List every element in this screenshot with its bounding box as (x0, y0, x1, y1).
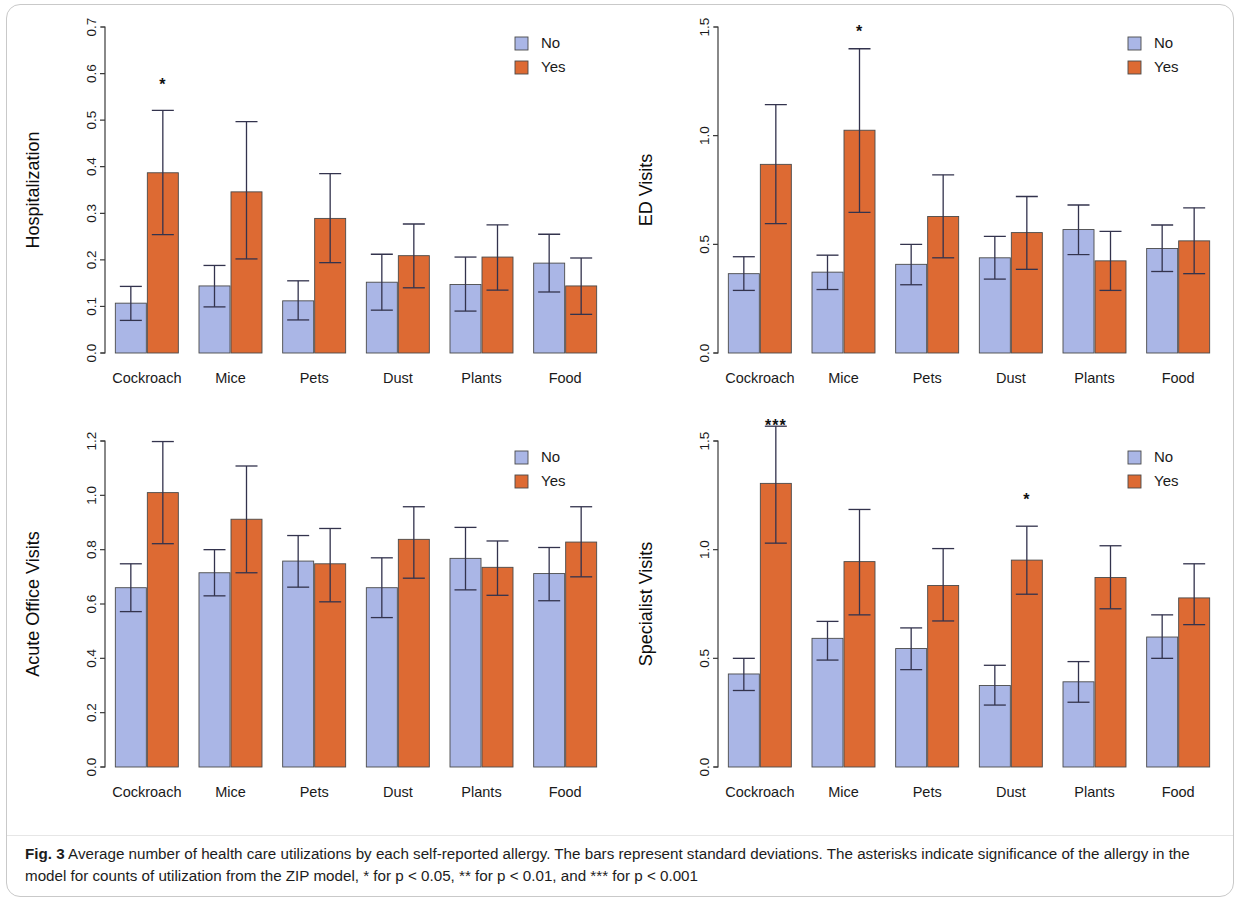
figure-card: 0.00.10.20.30.40.50.60.7HospitalizationC… (6, 4, 1234, 897)
category-label: Pets (300, 370, 329, 386)
y-tick-label: 0.2 (84, 703, 99, 722)
category-label: Dust (383, 370, 413, 386)
y-tick-label: 1.5 (697, 432, 712, 451)
legend-swatch-no (515, 37, 528, 50)
figure-caption-text: Average number of health care utilizatio… (25, 845, 1190, 884)
legend-swatch-yes (515, 475, 528, 488)
category-label: Food (1162, 784, 1195, 800)
category-label: Food (549, 370, 582, 386)
y-axis-title: ED Visits (636, 154, 656, 227)
bar (199, 573, 230, 767)
caption-divider (7, 835, 1234, 836)
y-tick-label: 0.5 (697, 649, 712, 668)
legend-swatch-no (515, 451, 528, 464)
legend-label-yes: Yes (541, 58, 565, 75)
y-tick-label: 0.4 (84, 648, 99, 667)
bar (115, 588, 146, 767)
category-label: Cockroach (725, 784, 794, 800)
chart-panel-acute-office-visits: 0.00.20.40.60.81.01.2Acute Office Visits… (7, 419, 620, 833)
y-tick-label: 0.0 (697, 344, 712, 363)
chart-legend: NoYes (515, 448, 565, 489)
bar (482, 567, 513, 767)
bar (534, 574, 565, 767)
chart-legend: NoYes (1128, 448, 1178, 489)
chart-panel-ed-visits: 0.00.51.01.5ED VisitsCockroachMicePetsDu… (620, 5, 1233, 419)
y-tick-label: 1.0 (697, 540, 712, 559)
y-tick-label: 0.7 (84, 18, 99, 37)
legend-label-no: No (1154, 448, 1173, 465)
category-label: Dust (996, 370, 1026, 386)
category-label: Plants (461, 370, 501, 386)
significance-marker: *** (765, 419, 787, 434)
legend-swatch-yes (1128, 475, 1141, 488)
y-axis-line (714, 441, 718, 767)
chart-panel-hospitalization: 0.00.10.20.30.40.50.60.7HospitalizationC… (7, 5, 620, 419)
y-tick-label: 1.5 (697, 18, 712, 37)
category-label: Mice (215, 370, 246, 386)
category-label: Plants (461, 784, 501, 800)
y-tick-label: 0.0 (697, 758, 712, 777)
category-label: Cockroach (112, 784, 181, 800)
y-tick-label: 0.8 (84, 540, 99, 559)
legend-label-no: No (541, 448, 560, 465)
legend-label-no: No (1154, 34, 1173, 51)
y-axis-title: Hospitalization (23, 131, 43, 248)
legend-label-no: No (541, 34, 560, 51)
y-tick-label: 0.6 (84, 64, 99, 83)
y-tick-label: 0.4 (84, 157, 99, 176)
category-label: Cockroach (725, 370, 794, 386)
significance-marker: * (1023, 491, 1030, 508)
category-label: Pets (913, 784, 942, 800)
category-label: Mice (828, 370, 859, 386)
y-axis-line (101, 27, 105, 353)
y-tick-label: 0.0 (84, 344, 99, 363)
y-tick-label: 0.5 (697, 235, 712, 254)
legend-label-yes: Yes (1154, 472, 1178, 489)
category-label: Plants (1074, 784, 1114, 800)
category-label: Cockroach (112, 370, 181, 386)
y-tick-label: 1.0 (84, 486, 99, 505)
figure-number: Fig. 3 (25, 845, 65, 862)
y-tick-label: 0.1 (84, 297, 99, 316)
y-tick-label: 1.0 (697, 126, 712, 145)
y-tick-label: 0.3 (84, 204, 99, 223)
category-label: Mice (828, 784, 859, 800)
legend-label-yes: Yes (1154, 58, 1178, 75)
legend-swatch-yes (1128, 61, 1141, 74)
y-tick-label: 0.6 (84, 595, 99, 614)
category-label: Dust (996, 784, 1026, 800)
bar (283, 561, 314, 767)
category-label: Plants (1074, 370, 1114, 386)
significance-marker: * (856, 23, 863, 40)
panel-grid: 0.00.10.20.30.40.50.60.7HospitalizationC… (7, 5, 1233, 833)
category-label: Food (549, 784, 582, 800)
legend-swatch-no (1128, 451, 1141, 464)
y-tick-label: 0.0 (84, 758, 99, 777)
figure-caption: Fig. 3 Average number of health care uti… (25, 843, 1221, 886)
y-tick-label: 0.2 (84, 250, 99, 269)
legend-swatch-yes (515, 61, 528, 74)
category-label: Food (1162, 370, 1195, 386)
y-tick-label: 1.2 (84, 432, 99, 451)
legend-label-yes: Yes (541, 472, 565, 489)
significance-marker: * (159, 76, 166, 93)
y-tick-label: 0.5 (84, 111, 99, 130)
legend-swatch-no (1128, 37, 1141, 50)
chart-panel-specialist-visits: 0.00.51.01.5Specialist VisitsCockroachMi… (620, 419, 1233, 833)
category-label: Pets (913, 370, 942, 386)
y-axis-title: Specialist Visits (636, 542, 656, 667)
y-axis-line (714, 27, 718, 353)
chart-legend: NoYes (1128, 34, 1178, 75)
category-label: Mice (215, 784, 246, 800)
category-label: Pets (300, 784, 329, 800)
chart-legend: NoYes (515, 34, 565, 75)
y-axis-title: Acute Office Visits (23, 531, 43, 676)
category-label: Dust (383, 784, 413, 800)
